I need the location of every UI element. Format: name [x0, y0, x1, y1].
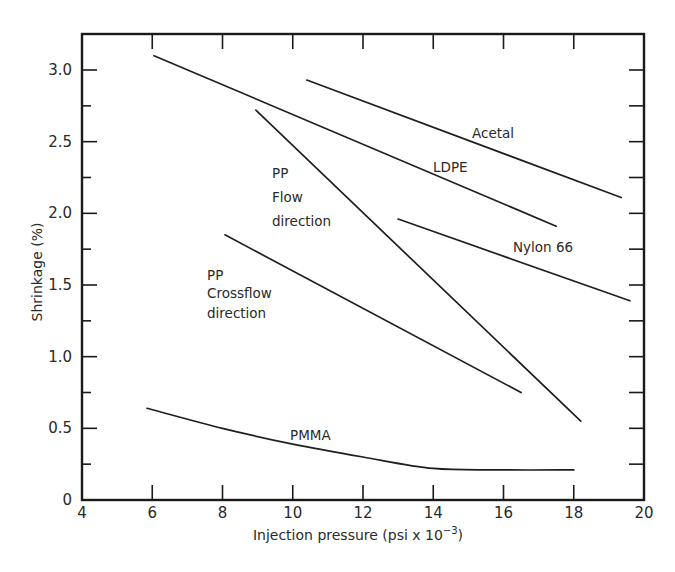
- label-pp-crossflow-direction: Crossflow: [207, 285, 272, 301]
- x-tick-label: 8: [218, 504, 228, 522]
- y-tick-label: 0.5: [48, 419, 72, 437]
- label-pp-flow-direction: direction: [272, 213, 331, 229]
- tick-labels: 46810121416182000.51.01.52.02.53.0: [48, 61, 653, 522]
- label-pp-crossflow-direction: direction: [207, 305, 266, 321]
- series-curves: [147, 56, 630, 470]
- y-tick-label: 1.0: [48, 348, 72, 366]
- y-tick-label: 0: [62, 491, 72, 509]
- plot-frame: [82, 34, 644, 500]
- x-tick-label: 6: [147, 504, 157, 522]
- x-tick-label: 16: [494, 504, 513, 522]
- label-pp-flow-direction: Flow: [272, 189, 303, 205]
- label-pp-flow-direction: PP: [272, 165, 288, 181]
- axis-ticks: [82, 34, 644, 500]
- x-axis-title: Injection pressure (psi x 10−3): [253, 525, 463, 543]
- x-axis-title-close: ): [458, 527, 463, 543]
- x-tick-label: 12: [353, 504, 372, 522]
- x-tick-label: 14: [424, 504, 443, 522]
- curve-pp-crossflow-direction: [225, 235, 521, 393]
- y-tick-label: 3.0: [48, 61, 72, 79]
- series-labels: AcetalLDPEPPFlowdirectionNylon 66PPCross…: [207, 125, 573, 443]
- y-tick-label: 1.5: [48, 276, 72, 294]
- x-axis-title-exponent: −3: [443, 525, 458, 536]
- y-tick-label: 2.5: [48, 133, 72, 151]
- shrinkage-chart: 46810121416182000.51.01.52.02.53.0 Aceta…: [0, 0, 675, 572]
- y-tick-label: 2.0: [48, 204, 72, 222]
- x-tick-label: 18: [564, 504, 583, 522]
- curve-acetal: [307, 80, 621, 198]
- x-tick-label: 4: [77, 504, 87, 522]
- label-acetal: Acetal: [472, 125, 514, 141]
- x-axis-title-main: Injection pressure (psi x 10: [253, 527, 443, 543]
- label-pmma: PMMA: [290, 427, 331, 443]
- label-ldpe: LDPE: [433, 159, 468, 175]
- label-pp-crossflow-direction: PP: [207, 267, 223, 283]
- x-tick-label: 20: [634, 504, 653, 522]
- x-tick-label: 10: [283, 504, 302, 522]
- label-nylon-66: Nylon 66: [513, 239, 573, 255]
- y-axis-title: Shrinkage (%): [29, 223, 45, 322]
- curve-nylon-66: [398, 219, 630, 301]
- curve-pmma: [147, 408, 574, 470]
